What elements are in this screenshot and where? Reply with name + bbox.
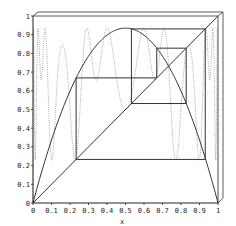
y-tick-label: 0.4 (17, 125, 30, 133)
y-tick-label: 0 (26, 200, 30, 208)
diagonal-line (33, 16, 218, 203)
y-tick-label: 0.5 (17, 106, 30, 114)
fifth-iterate-curve (33, 28, 218, 203)
x-tick-label: 0.9 (193, 207, 206, 215)
y-tick-label: 0.8 (17, 50, 30, 58)
y-axis-ticks: 00.10.20.30.40.50.60.70.80.91 (17, 13, 33, 208)
x-tick-label: 0 (31, 207, 35, 215)
y-tick-label: 0.2 (17, 162, 30, 170)
y-tick-label: 0.9 (17, 31, 30, 39)
x-tick-label: 0.6 (138, 207, 151, 215)
y-tick-label: 0.6 (17, 87, 30, 95)
frame-corner-edge (218, 12, 223, 16)
diagonal-path (33, 16, 218, 203)
logistic-map-curve (33, 28, 218, 203)
y-tick-label: 0.3 (17, 143, 30, 151)
cobweb-chart: 00.10.20.30.40.50.60.70.80.91 00.10.20.3… (0, 0, 236, 226)
x-axis-ticks: 00.10.20.30.40.50.60.70.80.91 (31, 203, 220, 215)
iterate-curve-path (33, 28, 218, 203)
x-tick-label: 0.7 (156, 207, 169, 215)
x-tick-label: 0.1 (45, 207, 58, 215)
x-tick-label: 1 (216, 207, 220, 215)
logistic-curve-path (33, 28, 218, 203)
x-axis-label: x (120, 218, 124, 226)
x-tick-label: 0.2 (64, 207, 77, 215)
x-tick-label: 0.8 (175, 207, 188, 215)
y-tick-label: 1 (26, 13, 30, 21)
x-tick-label: 0.4 (101, 207, 114, 215)
y-tick-label: 0.1 (17, 181, 30, 189)
y-tick-label: 0.7 (17, 69, 30, 77)
x-tick-label: 0.5 (119, 207, 132, 215)
x-tick-label: 0.3 (82, 207, 95, 215)
